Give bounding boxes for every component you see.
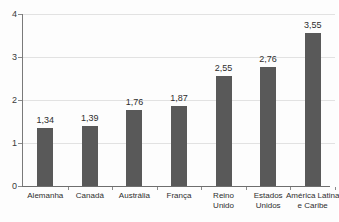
bar-group: 2,55 — [201, 14, 246, 186]
x-axis-category-label: EstadosUnidos — [254, 191, 283, 211]
bar-group: 1,34 — [23, 14, 68, 186]
category-label-line: Unidos — [254, 201, 283, 211]
plot-area: 1,341,391,761,872,552,763,55 — [23, 14, 335, 186]
x-axis-category-label: ReinoUnido — [213, 191, 234, 211]
bar[interactable] — [37, 128, 53, 186]
y-axis-tick-mark — [18, 100, 22, 101]
category-label-line: América Latina — [286, 191, 339, 201]
x-axis-category-label: Austrália — [119, 191, 150, 201]
bar-group: 1,76 — [112, 14, 157, 186]
y-axis-tick-label: 4 — [12, 10, 17, 19]
y-axis-tick-mark — [18, 14, 22, 15]
category-label-line: Reino — [213, 191, 234, 201]
x-axis-tick-mark — [112, 187, 113, 190]
category-label-line: Unido — [213, 201, 234, 211]
bar[interactable] — [82, 126, 98, 186]
bar-value-label: 3,55 — [304, 21, 322, 30]
bar-value-label: 1,39 — [81, 114, 99, 123]
bar[interactable] — [260, 67, 276, 186]
x-axis-category-label: Canadá — [76, 191, 104, 201]
bar-value-label: 2,55 — [215, 64, 233, 73]
category-label-line: Estados — [254, 191, 283, 201]
y-axis-tick-label: 2 — [12, 96, 17, 105]
bar-value-label: 2,76 — [259, 55, 277, 64]
y-axis-tick-mark — [18, 57, 22, 58]
y-axis-tick-label: 3 — [12, 53, 17, 62]
bar[interactable] — [126, 110, 142, 186]
bar-value-label: 1,87 — [170, 94, 188, 103]
bar-group: 1,39 — [68, 14, 113, 186]
x-axis-tick-mark — [157, 187, 158, 190]
category-label-line: Austrália — [119, 191, 150, 201]
y-axis-tick-labels: 01234 — [0, 0, 20, 222]
x-axis-tick-mark — [246, 187, 247, 190]
bar[interactable] — [216, 76, 232, 186]
bar-value-label: 1,76 — [126, 98, 144, 107]
bar-group: 1,87 — [157, 14, 202, 186]
bar[interactable] — [171, 106, 187, 186]
y-axis-tick-label: 1 — [12, 139, 17, 148]
category-label-line: e Caribe — [286, 201, 339, 211]
x-axis-tick-mark — [201, 187, 202, 190]
bar-group: 2,76 — [246, 14, 291, 186]
y-axis-tick-label: 0 — [12, 182, 17, 191]
category-label-line: França — [167, 191, 192, 201]
x-axis-tick-mark — [68, 187, 69, 190]
category-label-line: Canadá — [76, 191, 104, 201]
y-axis-tick-mark — [18, 143, 22, 144]
x-axis-category-label: América Latinae Caribe — [286, 191, 339, 211]
bar-group: 3,55 — [290, 14, 335, 186]
x-axis-tick-mark — [335, 187, 336, 190]
x-axis-category-label: França — [167, 191, 192, 201]
x-axis-tick-mark — [290, 187, 291, 190]
category-label-line: Alemanha — [27, 191, 63, 201]
x-axis-category-label: Alemanha — [27, 191, 63, 201]
bar[interactable] — [305, 33, 321, 186]
bar-value-label: 1,34 — [37, 116, 55, 125]
